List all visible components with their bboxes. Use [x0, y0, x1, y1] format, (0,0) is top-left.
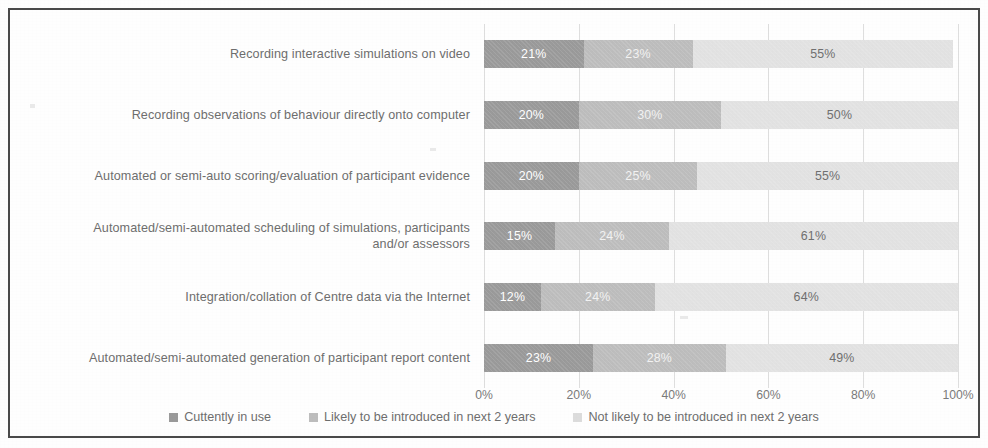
stacked-bar[interactable]: 15%24%61% [484, 222, 958, 250]
legend-item[interactable]: Not likely to be introduced in next 2 ye… [573, 410, 818, 424]
category-label: Automated/semi-automated scheduling of s… [10, 220, 484, 252]
x-axis-tick: 60% [756, 388, 780, 402]
bar-segment[interactable]: 50% [721, 101, 958, 129]
stacked-bar-chart: Recording interactive simulations on vid… [10, 10, 978, 436]
legend-item[interactable]: Likely to be introduced in next 2 years [309, 410, 535, 424]
legend-item[interactable]: Cuttently in use [169, 410, 271, 424]
bar-row: Automated/semi-automated generation of p… [10, 327, 978, 388]
bar-value-label: 24% [585, 290, 610, 304]
bar-segment[interactable]: 23% [584, 40, 693, 68]
bar-segment[interactable]: 21% [484, 40, 584, 68]
bar-value-label: 25% [625, 169, 650, 183]
chart-legend: Cuttently in useLikely to be introduced … [10, 410, 978, 424]
legend-label: Cuttently in use [184, 410, 271, 424]
legend-label: Not likely to be introduced in next 2 ye… [588, 410, 818, 424]
bar-value-label: 21% [521, 47, 546, 61]
bar-value-label: 30% [637, 108, 662, 122]
x-axis-tick: 40% [661, 388, 685, 402]
stacked-bar[interactable]: 12%24%64% [484, 283, 958, 311]
x-axis-tick: 0% [475, 388, 493, 402]
stacked-bar[interactable]: 20%30%50% [484, 101, 958, 129]
x-axis-tick: 80% [851, 388, 875, 402]
bar-value-label: 61% [801, 229, 826, 243]
page-border-right [978, 8, 980, 438]
x-axis: 0%20%40%60%80%100% [484, 388, 958, 408]
bar-value-label: 20% [519, 108, 544, 122]
bar-segment[interactable]: 23% [484, 344, 593, 372]
chart-page: Recording interactive simulations on vid… [0, 0, 988, 448]
bar-value-label: 23% [625, 47, 650, 61]
bar-value-label: 24% [599, 229, 624, 243]
bar-value-label: 55% [815, 169, 840, 183]
bar-segment[interactable]: 28% [593, 344, 726, 372]
page-border-bottom [8, 436, 980, 438]
bar-segment[interactable]: 24% [541, 283, 655, 311]
bar-value-label: 15% [507, 229, 532, 243]
legend-label: Likely to be introduced in next 2 years [324, 410, 535, 424]
bar-segment[interactable]: 30% [579, 101, 721, 129]
bar-segment[interactable]: 61% [669, 222, 958, 250]
bar-row: Recording observations of behaviour dire… [10, 85, 978, 146]
bar-segment[interactable]: 55% [697, 162, 958, 190]
category-label: Automated or semi-auto scoring/evaluatio… [10, 168, 484, 184]
stacked-bar[interactable]: 21%23%55% [484, 40, 958, 68]
bar-segment[interactable]: 20% [484, 162, 579, 190]
x-axis-tick: 20% [567, 388, 591, 402]
category-label: Recording observations of behaviour dire… [10, 107, 484, 123]
bar-value-label: 55% [810, 47, 835, 61]
stacked-bar[interactable]: 23%28%49% [484, 344, 958, 372]
bar-value-label: 50% [827, 108, 852, 122]
bar-segment[interactable]: 25% [579, 162, 698, 190]
bar-value-label: 64% [794, 290, 819, 304]
bar-value-label: 49% [829, 351, 854, 365]
bar-row: Recording interactive simulations on vid… [10, 24, 978, 85]
plot-area: Recording interactive simulations on vid… [10, 24, 978, 388]
bar-segment[interactable]: 64% [655, 283, 958, 311]
bar-segment[interactable]: 55% [693, 40, 954, 68]
legend-swatch-icon [309, 413, 318, 422]
bar-row: Integration/collation of Centre data via… [10, 267, 978, 328]
category-label: Recording interactive simulations on vid… [10, 46, 484, 62]
bar-segment[interactable]: 12% [484, 283, 541, 311]
bar-value-label: 20% [519, 169, 544, 183]
bar-value-label: 23% [526, 351, 551, 365]
bar-value-label: 12% [500, 290, 525, 304]
legend-swatch-icon [573, 413, 582, 422]
bar-row: Automated/semi-automated scheduling of s… [10, 206, 978, 267]
bar-value-label: 28% [647, 351, 672, 365]
legend-swatch-icon [169, 413, 178, 422]
bar-row: Automated or semi-auto scoring/evaluatio… [10, 145, 978, 206]
category-label: Automated/semi-automated generation of p… [10, 350, 484, 366]
bar-segment[interactable]: 20% [484, 101, 579, 129]
x-axis-tick: 100% [942, 388, 973, 402]
bar-segment[interactable]: 49% [726, 344, 958, 372]
stacked-bar[interactable]: 20%25%55% [484, 162, 958, 190]
category-label: Integration/collation of Centre data via… [10, 289, 484, 305]
bar-segment[interactable]: 24% [555, 222, 669, 250]
bar-segment[interactable]: 15% [484, 222, 555, 250]
